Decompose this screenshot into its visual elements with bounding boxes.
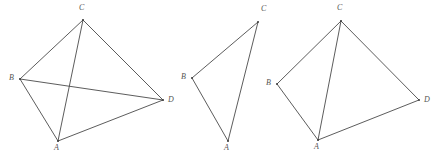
figure-3-vertices	[276, 20, 420, 141]
figure-1-edge-bc	[20, 20, 83, 79]
figure-1-label-d: D	[168, 96, 174, 104]
figure-2-vertex-c	[257, 21, 259, 23]
figure-1-vertex-b	[19, 78, 21, 80]
figure-1-vertices	[19, 19, 164, 142]
figure-3-edge-bc	[277, 21, 341, 84]
figure-1-label-c: C	[79, 4, 84, 12]
figure-2-label-b: B	[181, 73, 186, 81]
figure-1-edge-cd	[83, 20, 163, 100]
figure-3-edges	[277, 21, 419, 140]
figure-1-edge-ca	[58, 20, 83, 141]
figure-3-label-b: B	[266, 79, 271, 87]
figure-2-vertices	[191, 21, 259, 142]
figure-3-edge-cd	[341, 21, 419, 100]
figure-1-label-b: B	[9, 74, 14, 82]
figure-3-edge-ab	[277, 84, 318, 140]
figures-svg	[0, 0, 442, 158]
figure-1-label-a: A	[54, 144, 59, 152]
figure-1-edge-bd	[20, 79, 163, 100]
figure-1-vertex-c	[82, 19, 84, 21]
figure-1-edges	[20, 20, 163, 141]
figure-2-vertex-b	[191, 77, 193, 79]
geometry-figures-canvas: CBDACBACBDA	[0, 0, 442, 158]
figure-3-vertex-c	[340, 20, 342, 22]
figure-3-label-d: D	[424, 96, 430, 104]
figure-1-vertex-d	[162, 99, 164, 101]
figure-1-edge-ab	[20, 79, 58, 141]
figure-3-vertex-b	[276, 83, 278, 85]
figure-3-vertex-d	[418, 99, 420, 101]
figure-2-label-a: A	[224, 144, 229, 152]
figure-2-edge-bc	[192, 22, 258, 78]
figure-2-vertex-a	[227, 140, 229, 142]
figure-2-edge-ac	[228, 22, 258, 141]
figure-3-label-a: A	[314, 143, 319, 151]
figure-1-vertex-a	[57, 140, 59, 142]
figure-2-label-c: C	[261, 5, 266, 13]
figure-3-edge-ca	[318, 21, 341, 140]
figure-2-edges	[192, 22, 258, 141]
figure-3-label-c: C	[337, 4, 342, 12]
figure-2-edge-ba	[192, 78, 228, 141]
figure-1-edge-da	[58, 100, 163, 141]
figure-3-vertex-a	[317, 139, 319, 141]
edges-layer	[20, 20, 419, 141]
figure-3-edge-da	[318, 100, 419, 140]
